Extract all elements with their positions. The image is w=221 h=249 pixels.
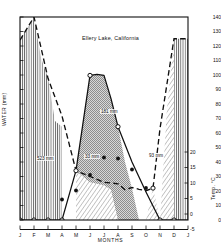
temperature-point — [144, 186, 148, 190]
surplus-region-left — [20, 17, 62, 220]
y-tick-label: 130 — [204, 29, 221, 34]
annotation-utilization: 33 mm — [84, 154, 100, 159]
climograph-figure: Ellery Lake, California 140 130 120 110 … — [0, 0, 221, 249]
data-point-marker — [74, 169, 78, 173]
y-tick-label: 140 — [204, 15, 221, 20]
data-point-marker — [116, 125, 120, 129]
y-tick-label-right: 5 — [190, 196, 206, 201]
y-tick-label: 100 — [204, 73, 221, 78]
x-axis-title: MONTHS — [0, 237, 221, 243]
y-axis-title-left: WATER (mm) — [1, 92, 7, 126]
y-tick-label: 70 — [204, 116, 221, 121]
y-tick-label: 110 — [204, 58, 221, 63]
data-point-marker — [151, 186, 155, 190]
y-tick-label-right: 0 — [190, 212, 206, 217]
y-axis-title-right: Temp. °C — [210, 177, 216, 200]
y-tick-label: 10 — [204, 203, 221, 208]
temperature-point — [116, 157, 120, 161]
y-tick-label-right: 15 — [190, 165, 206, 170]
y-tick-label: 50 — [204, 145, 221, 150]
y-tick-label: 90 — [204, 87, 221, 92]
temperature-point — [88, 173, 92, 177]
y-tick-label: 80 — [204, 102, 221, 107]
data-point-marker — [88, 73, 92, 77]
chart-title: Ellery Lake, California — [0, 35, 221, 41]
y-tick-label: 120 — [204, 44, 221, 49]
y-tick-label: 0 — [204, 218, 221, 223]
surplus-region-right — [174, 39, 188, 220]
y-tick-label: 40 — [204, 160, 221, 165]
x-axis-ticks — [20, 226, 188, 230]
y-tick-label: 60 — [204, 131, 221, 136]
y-tick-label-right: 10 — [190, 181, 206, 186]
temperature-point — [102, 156, 106, 160]
y-tick-label-right: 20 — [190, 150, 206, 155]
temperature-point — [74, 189, 78, 193]
temperature-point — [130, 168, 134, 172]
temperature-point — [60, 198, 64, 202]
annotation-recharge: 93 mm — [148, 153, 164, 158]
annotation-surplus: 523 mm — [36, 156, 55, 161]
annotation-deficit: 181 mm — [100, 109, 119, 114]
